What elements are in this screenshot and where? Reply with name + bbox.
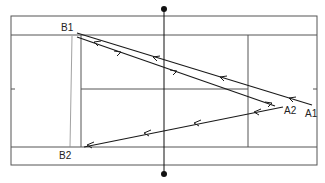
label-a2: A2 bbox=[284, 105, 297, 116]
net-post-top bbox=[161, 6, 167, 12]
arrow-icon bbox=[170, 70, 177, 75]
shot-a1-to-b1 bbox=[77, 33, 312, 105]
tennis-court-diagram: B1 B2 A2 A1 bbox=[0, 0, 325, 183]
label-b2: B2 bbox=[59, 150, 72, 161]
net-post-bottom bbox=[161, 171, 167, 177]
label-a1: A1 bbox=[305, 108, 318, 119]
shot-a2-to-b2 bbox=[84, 107, 283, 147]
player-movement-line bbox=[70, 36, 72, 147]
arrow-icon bbox=[114, 51, 121, 56]
label-b1: B1 bbox=[61, 22, 74, 33]
